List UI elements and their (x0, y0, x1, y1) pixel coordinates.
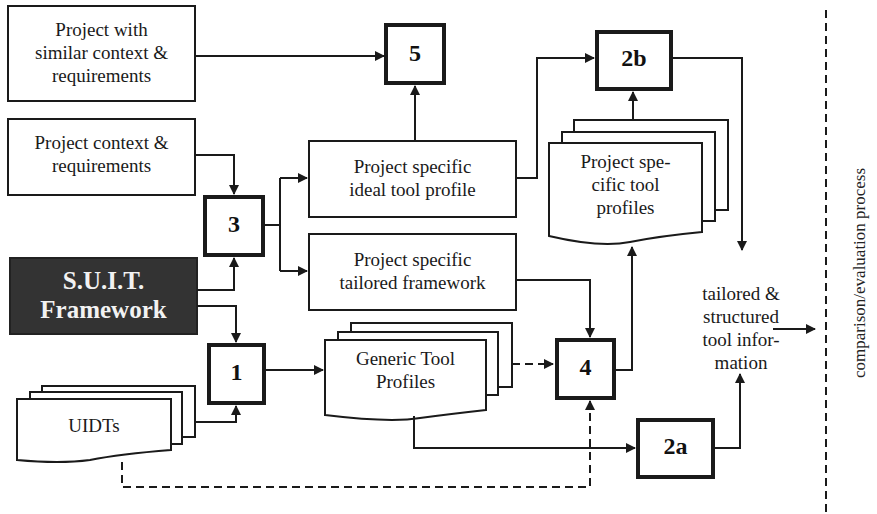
step-1-label: 1 (209, 359, 264, 386)
uidts-label: UIDTs (17, 414, 171, 437)
label-line: tool infor- (688, 328, 794, 351)
label-line: mation (688, 351, 794, 374)
suit-framework-label: S.U.I.T. Framework (10, 266, 197, 324)
similar-project-label: Project with similar context & requireme… (8, 18, 195, 87)
label-line: Project with (8, 18, 195, 41)
project-context-label: Project context & requirements (8, 131, 195, 177)
label-line: requirements (8, 64, 195, 87)
step-2a-label: 2a (638, 433, 713, 460)
step-4-label: 4 (557, 354, 614, 381)
label-line: structured (688, 305, 794, 328)
generic-profiles-label: Generic Tool Profiles (325, 347, 486, 393)
label-line: requirements (8, 154, 195, 177)
label-line: tailored & (688, 282, 794, 305)
step-3-label: 3 (205, 211, 263, 238)
label-line: profiles (549, 196, 702, 219)
label-line: tailored framework (309, 271, 516, 294)
output-label: tailored & structured tool infor- mation (688, 282, 794, 374)
ideal-tool-profile-label: Project specific ideal tool profile (309, 155, 516, 201)
label-line: cific tool (549, 173, 702, 196)
label-line: Project spe- (549, 150, 702, 173)
tailored-framework-label: Project specific tailored framework (309, 248, 516, 294)
label-line: Framework (10, 295, 197, 324)
label-line: Profiles (325, 370, 486, 393)
specific-profiles-label: Project spe- cific tool profiles (549, 150, 702, 219)
label-line: Generic Tool (325, 347, 486, 370)
step-5-label: 5 (386, 40, 444, 67)
label-line: ideal tool profile (309, 178, 516, 201)
comparison-evaluation-label: comparison/evaluation process (850, 168, 870, 378)
label-line: Project context & (8, 131, 195, 154)
label-line: similar context & (8, 41, 195, 64)
step-2b-label: 2b (597, 45, 671, 72)
label-line: Project specific (309, 155, 516, 178)
label-line: S.U.I.T. (10, 266, 197, 295)
label-line: Project specific (309, 248, 516, 271)
